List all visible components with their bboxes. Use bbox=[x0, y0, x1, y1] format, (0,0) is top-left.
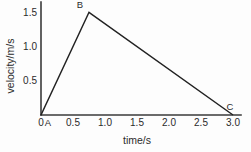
x-tick-label: 0 bbox=[38, 117, 44, 128]
x-tick-label: 3.0 bbox=[226, 117, 240, 128]
y-tick-label: 1.5 bbox=[23, 7, 37, 18]
point-label-a: A bbox=[45, 117, 52, 128]
x-tick-label: 0.5 bbox=[66, 117, 80, 128]
y-axis-title: velocity/m/s bbox=[4, 39, 16, 94]
x-axis-title: time/s bbox=[123, 134, 151, 146]
point-labels: ABC bbox=[45, 0, 234, 128]
data-series-group bbox=[41, 12, 233, 115]
point-label-b: B bbox=[77, 0, 83, 10]
x-tick-labels: 00.51.01.52.02.53.0 bbox=[38, 117, 240, 128]
y-tick-label: 1.0 bbox=[23, 41, 37, 52]
x-tick-label: 1.5 bbox=[130, 117, 144, 128]
velocity-time-chart: 00.51.01.52.02.53.0 0.51.01.5 ABC time/s… bbox=[0, 0, 251, 152]
x-tick-label: 2.5 bbox=[194, 117, 208, 128]
chart-canvas: 00.51.01.52.02.53.0 0.51.01.5 ABC time/s… bbox=[0, 0, 251, 152]
x-tick-label: 1.0 bbox=[98, 117, 112, 128]
axes-group bbox=[41, 2, 241, 115]
x-tick-label: 2.0 bbox=[162, 117, 176, 128]
y-tick-label: 0.5 bbox=[23, 75, 37, 86]
y-tick-labels: 0.51.01.5 bbox=[23, 7, 37, 86]
velocity-line bbox=[41, 12, 233, 115]
point-label-c: C bbox=[227, 101, 234, 112]
